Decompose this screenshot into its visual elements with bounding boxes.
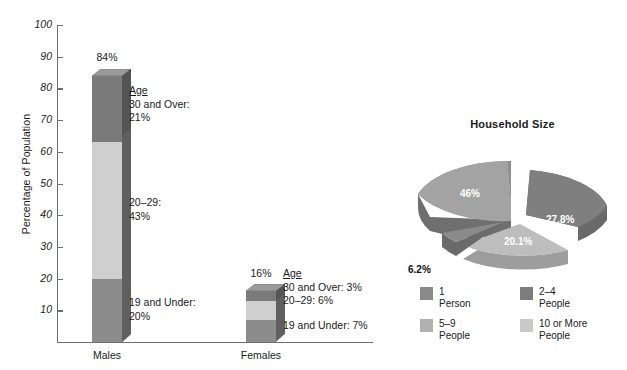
- bar-females-seg-20-29: [246, 301, 276, 320]
- annotation-males-19-and-under: 19 and Under: 20%: [129, 296, 196, 323]
- bar-males: [92, 69, 122, 342]
- pie-chart-title: Household Size: [398, 118, 627, 130]
- bar-females-seg-19-and-under: [246, 320, 276, 342]
- annotation-females: Age 30 and Over: 3% 20–29: 6% 19 and Und…: [283, 267, 368, 332]
- y-tick-label: 30: [8, 241, 52, 252]
- annotation-females-line-2: 20–29: 6%: [283, 294, 368, 308]
- bar-males-seg-20-29: [92, 142, 122, 278]
- y-tick-label: 60: [8, 146, 52, 157]
- annotation-males-line-3: 20–29:: [129, 196, 161, 210]
- y-tick-label: 10: [8, 304, 52, 315]
- annotation-females-header: Age: [283, 267, 368, 281]
- bar-females: [246, 284, 276, 342]
- figure-root: Percentage of Population 100 90 80 70 60…: [0, 0, 627, 370]
- pie-chart-graphic: [408, 138, 618, 278]
- pie-label-5-9-people: 46%: [460, 188, 480, 199]
- pie-slice-2-4-people: [526, 170, 607, 241]
- y-tick-label: 40: [8, 209, 52, 220]
- pie-label-2-4-people: 27.8%: [546, 214, 574, 225]
- annotation-females-line-3: 19 and Under: 7%: [283, 319, 368, 333]
- x-axis-line: [57, 342, 373, 343]
- pie-label-10-or-more-people: 20.1%: [504, 236, 532, 247]
- annotation-males-line-1: 30 and Over:: [129, 98, 190, 112]
- legend-item-1-person[interactable]: 1Person: [420, 286, 520, 309]
- stacked-bar-chart: Percentage of Population 100 90 80 70 60…: [0, 0, 390, 370]
- x-label-females: Females: [216, 349, 306, 361]
- pie-legend: 1Person 2–4People 5–9People: [420, 286, 620, 350]
- bar-males-seg-19-and-under: [92, 279, 122, 342]
- legend-label-1-person: 1Person: [439, 286, 471, 309]
- household-size-pie-chart: Household Size: [398, 118, 627, 370]
- annotation-males-header: Age: [129, 84, 190, 98]
- annotation-males-line-2: 21%: [129, 111, 190, 125]
- bar-males-seg-30-and-over: [92, 76, 122, 143]
- legend-item-10-or-more-people[interactable]: 10 or MorePeople: [520, 318, 620, 341]
- annotation-males-line-4: 43%: [129, 210, 161, 224]
- bar-males-total-label: 84%: [77, 51, 137, 63]
- legend-row-1: 1Person 2–4People: [420, 286, 620, 318]
- annotation-females-line-1: 30 and Over: 3%: [283, 281, 368, 295]
- annotation-males-30-and-over: Age 30 and Over: 21%: [129, 84, 190, 125]
- annotation-males-20-29: 20–29: 43%: [129, 196, 161, 223]
- legend-swatch-5-9-people: [420, 319, 433, 332]
- annotation-males-line-5: 19 and Under:: [129, 296, 196, 310]
- y-tick-label: 100: [8, 19, 52, 30]
- y-tick-label: 90: [8, 51, 52, 62]
- legend-swatch-2-4-people: [520, 287, 533, 300]
- bar-females-total-label: 16%: [231, 267, 291, 279]
- legend-item-2-4-people[interactable]: 2–4People: [520, 286, 620, 309]
- y-tick-label: 70: [8, 114, 52, 125]
- legend-label-10-or-more-people: 10 or MorePeople: [539, 318, 587, 341]
- x-label-males: Males: [62, 349, 152, 361]
- y-tick-label: 80: [8, 82, 52, 93]
- legend-label-2-4-people: 2–4People: [539, 286, 570, 309]
- annotation-males-line-6: 20%: [129, 310, 196, 324]
- legend-item-5-9-people[interactable]: 5–9People: [420, 318, 520, 341]
- legend-label-5-9-people: 5–9People: [439, 318, 470, 341]
- legend-swatch-10-or-more-people: [520, 319, 533, 332]
- legend-swatch-1-person: [420, 287, 433, 300]
- pie-label-1-person: 6.2%: [408, 264, 431, 275]
- y-tick-label: 50: [8, 178, 52, 189]
- legend-row-2: 5–9People 10 or MorePeople: [420, 318, 620, 350]
- y-tick-label: 20: [8, 273, 52, 284]
- bar-females-seg-30-and-over: [246, 291, 276, 301]
